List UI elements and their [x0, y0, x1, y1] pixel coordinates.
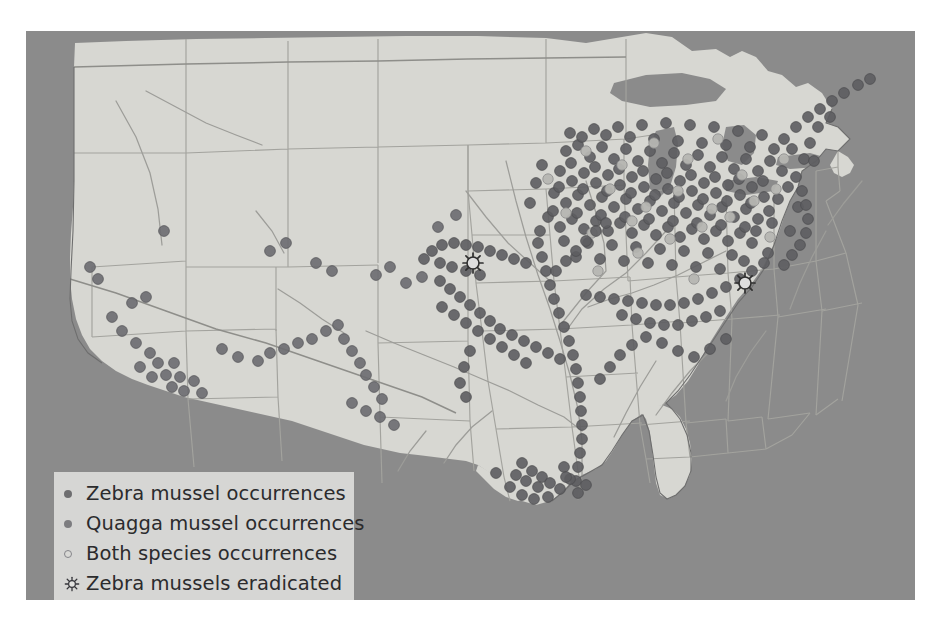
distribution-map: Zebra mussel occurrences Quagga mussel o… [26, 31, 915, 600]
zebra-mussel-dot-icon [64, 479, 84, 509]
eradicated-marker [735, 273, 755, 293]
map-legend: Zebra mussel occurrences Quagga mussel o… [54, 472, 354, 600]
eradicated-starburst-icon [64, 569, 84, 599]
legend-label-both: Both species occurrences [86, 539, 337, 569]
quagga-mussel-dot-icon [64, 509, 84, 539]
legend-label-quagga: Quagga mussel occurrences [86, 509, 365, 539]
legend-item-quagga: Quagga mussel occurrences [64, 509, 346, 539]
figure-page: Zebra mussel occurrences Quagga mussel o… [0, 0, 935, 629]
legend-item-eradicated: Zebra mussels eradicated [64, 569, 346, 599]
legend-item-both: Both species occurrences [64, 539, 346, 569]
both-species-dot-icon [64, 539, 84, 569]
legend-item-zebra: Zebra mussel occurrences [64, 479, 346, 509]
eradicated-marker [463, 253, 483, 273]
legend-label-zebra: Zebra mussel occurrences [86, 479, 346, 509]
legend-label-eradicated: Zebra mussels eradicated [86, 569, 342, 599]
